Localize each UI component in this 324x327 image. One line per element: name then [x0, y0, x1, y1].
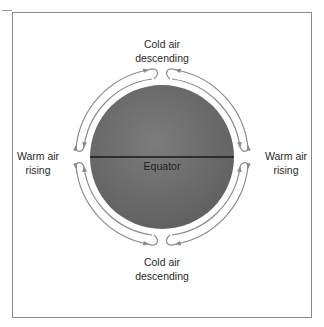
top-label-line1: Cold air [112, 37, 212, 51]
bottom-hook-left [148, 235, 157, 245]
right-hook-upper [240, 146, 248, 151]
right-label-line1: Warm air [254, 149, 318, 163]
top-label-line2: descending [112, 51, 212, 65]
top-hook-right [167, 69, 176, 79]
right-hook-lower [240, 163, 248, 168]
left-hook-upper [76, 146, 84, 151]
right-label: Warm air rising [254, 149, 318, 177]
bottom-hook-right [167, 235, 176, 245]
bottom-label-line1: Cold air [112, 255, 212, 269]
top-label: Cold air descending [112, 37, 212, 65]
top-hook-left [148, 69, 157, 79]
right-label-line2: rising [254, 163, 318, 177]
bottom-label: Cold air descending [112, 255, 212, 283]
equator-label: Equator [132, 159, 192, 173]
left-label-line1: Warm air [6, 149, 70, 163]
left-label-line2: rising [6, 163, 70, 177]
left-hook-lower [76, 163, 84, 168]
left-label: Warm air rising [6, 149, 70, 177]
bottom-label-line2: descending [112, 269, 212, 283]
